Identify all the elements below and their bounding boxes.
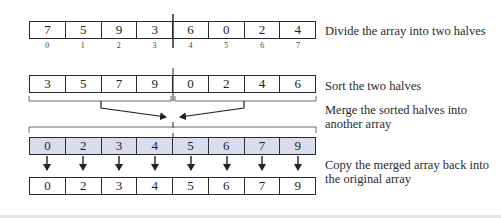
merge-arrow-right: [180, 101, 244, 117]
bottom-band: [0, 215, 501, 218]
left-half-bracket: [29, 96, 171, 101]
copy-arrows: [47, 156, 298, 170]
connectors: [0, 0, 501, 218]
right-half-bracket: [175, 96, 316, 101]
merge-arrow-left: [101, 101, 166, 117]
